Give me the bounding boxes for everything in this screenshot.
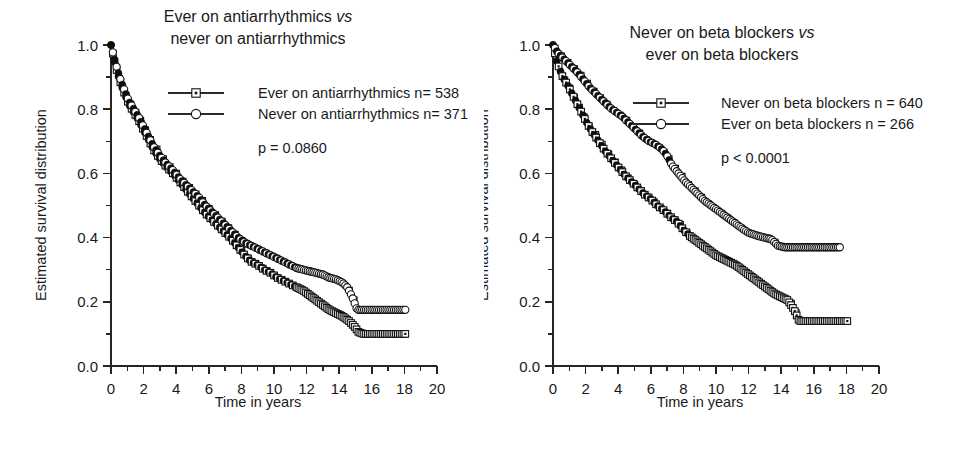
- chart-title-line-1: Never on beta blockers vs: [630, 24, 815, 41]
- chart-title-line-1: Ever on antiarrhythmics vs: [164, 8, 353, 25]
- series-curve-squares: [550, 42, 851, 325]
- legend-label: Ever on beta blockers n = 266: [721, 116, 914, 132]
- y-tick-label: 1.0: [519, 37, 540, 54]
- x-tick-label: 20: [429, 380, 446, 397]
- chart-title-line-2: ever on beta blockers: [646, 46, 799, 63]
- x-tick-label: 4: [614, 380, 622, 397]
- x-axis-title: Time in years: [215, 394, 301, 410]
- legend-label: Ever on antiarrhythmics n= 538: [258, 85, 459, 101]
- y-tick-label: 0.6: [519, 165, 540, 182]
- x-tick-label: 0: [549, 380, 557, 397]
- series-curve-circles: [108, 42, 409, 314]
- legend-label: Never on antiarrhythmics n= 371: [258, 106, 468, 122]
- y-tick-label: 0.8: [519, 101, 540, 118]
- y-tick-label: 0.8: [77, 101, 98, 118]
- x-axis-title: Time in years: [657, 394, 743, 410]
- y-tick-label: 0.2: [519, 293, 540, 310]
- series-curve-circles: [550, 42, 844, 251]
- legend: Never on beta blockers n = 640Ever on be…: [633, 95, 923, 132]
- p-value-annotation: p < 0.0001: [721, 150, 790, 166]
- x-tick-label: 2: [581, 380, 589, 397]
- x-tick-label: 4: [172, 380, 180, 397]
- p-value-annotation: p = 0.0860: [258, 140, 327, 156]
- y-tick-label: 0.2: [77, 293, 98, 310]
- y-axis-title: Estimated survival distribution: [33, 109, 49, 301]
- y-tick-label: 1.0: [77, 37, 98, 54]
- x-tick-label: 16: [363, 380, 380, 397]
- x-tick-label: 16: [805, 380, 822, 397]
- x-tick-label: 14: [773, 380, 790, 397]
- y-tick-label: 0.0: [77, 358, 98, 375]
- survival-chart-panel-right: 0.00.20.40.60.81.002468101214161820Never…: [484, 0, 968, 464]
- y-tick-label: 0.4: [77, 229, 98, 246]
- y-axis-title: Estimated survival distribution: [484, 109, 491, 301]
- x-tick-label: 14: [331, 380, 348, 397]
- survival-chart-panel-left: 0.00.20.40.60.81.002468101214161820Ever …: [0, 0, 484, 464]
- x-tick-label: 20: [871, 380, 888, 397]
- x-tick-label: 6: [647, 380, 655, 397]
- x-tick-label: 0: [107, 380, 115, 397]
- chart-title-line-2: never on antiarrhythmics: [170, 30, 345, 47]
- figure-two-panel-survival-curves: 0.00.20.40.60.81.002468101214161820Ever …: [0, 0, 968, 464]
- legend: Ever on antiarrhythmics n= 538Never on a…: [168, 85, 468, 122]
- y-tick-label: 0.6: [77, 165, 98, 182]
- legend-label: Never on beta blockers n = 640: [721, 95, 923, 111]
- x-tick-label: 18: [396, 380, 413, 397]
- x-tick-label: 2: [139, 380, 147, 397]
- y-tick-label: 0.4: [519, 229, 540, 246]
- x-tick-label: 6: [205, 380, 213, 397]
- x-tick-label: 18: [838, 380, 855, 397]
- y-tick-label: 0.0: [519, 358, 540, 375]
